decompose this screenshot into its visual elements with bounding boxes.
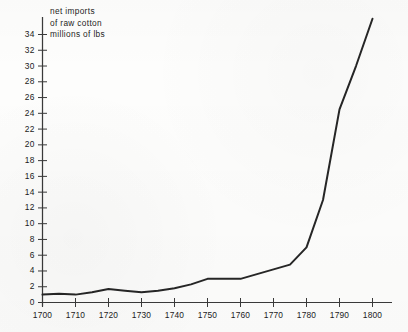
y-axis-tick-label: 8 [17, 234, 35, 244]
x-axis-tick-label: 1750 [191, 310, 225, 320]
y-axis-tick-label: 28 [17, 76, 35, 86]
chart-caption: net imports of raw cotton millions of lb… [50, 6, 105, 41]
y-axis-tick-label: 10 [17, 218, 35, 228]
caption-line-1: net imports [50, 6, 105, 18]
data-line-net-imports [43, 19, 373, 295]
y-axis-tick-label: 22 [17, 124, 35, 134]
x-axis-tick-label: 1790 [323, 310, 357, 320]
y-axis-tick-label: 2 [17, 281, 35, 291]
line-plot [0, 0, 408, 332]
y-axis-tick-label: 34 [17, 29, 35, 39]
y-axis-tick-label: 20 [17, 139, 35, 149]
x-axis-tick-label: 1730 [125, 310, 159, 320]
y-axis-tick-label: 0 [17, 297, 35, 307]
x-axis-tick-label: 1760 [224, 310, 258, 320]
x-axis-tick-label: 1720 [92, 310, 126, 320]
caption-line-3: millions of lbs [50, 29, 105, 41]
caption-line-2: of raw cotton [50, 18, 105, 30]
y-axis-tick-label: 16 [17, 171, 35, 181]
y-axis-tick-label: 32 [17, 45, 35, 55]
x-axis-tick-label: 1710 [59, 310, 93, 320]
x-axis-tick-label: 1700 [26, 310, 60, 320]
y-axis-tick-label: 12 [17, 202, 35, 212]
x-axis-tick-label: 1740 [158, 310, 192, 320]
y-axis-tick-label: 26 [17, 92, 35, 102]
y-axis-tick-label: 18 [17, 155, 35, 165]
y-axis-tick-label: 6 [17, 250, 35, 260]
x-axis-tick-label: 1780 [290, 310, 324, 320]
chart-figure: net imports of raw cotton millions of lb… [0, 0, 408, 332]
y-axis-tick-label: 4 [17, 265, 35, 275]
y-axis-tick-label: 14 [17, 187, 35, 197]
x-axis-tick-label: 1800 [356, 310, 390, 320]
x-axis-tick-label: 1770 [257, 310, 291, 320]
y-axis-tick-label: 30 [17, 61, 35, 71]
y-axis-tick-label: 24 [17, 108, 35, 118]
